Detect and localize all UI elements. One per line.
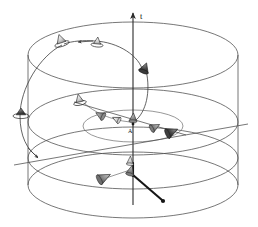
figure-root: t bbox=[0, 0, 258, 227]
heavy-vector-endpoint bbox=[161, 199, 165, 203]
trajectory-upper-spiral bbox=[64, 41, 143, 72]
origin-point-dot bbox=[132, 123, 135, 126]
heavy-vector-group bbox=[133, 163, 165, 203]
time-axis-label: t bbox=[140, 11, 143, 21]
trajectory-outer-loop bbox=[20, 45, 62, 157]
trajectory-upper-spiral-arrow bbox=[78, 41, 93, 42]
trajectory-descend-to-center bbox=[135, 70, 148, 121]
cone-marker bbox=[138, 61, 151, 75]
cone-marker bbox=[95, 170, 113, 186]
cone-marker bbox=[129, 113, 138, 123]
cone-marker bbox=[52, 32, 70, 48]
cone-marker bbox=[13, 108, 29, 119]
heavy-vector-line bbox=[133, 175, 162, 200]
cylinder-spacetime-diagram: t bbox=[0, 0, 258, 227]
origin-point-label: A bbox=[128, 128, 133, 134]
